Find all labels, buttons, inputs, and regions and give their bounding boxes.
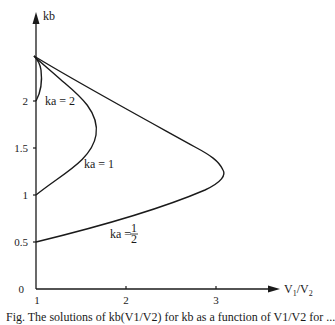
x-axis-arrow-icon [268, 286, 280, 293]
y-tick-label-1: 1 [23, 189, 29, 201]
x-tick-label-1: 1 [34, 294, 40, 306]
svg-text:ka =: ka = [110, 227, 131, 241]
y-tick-label-2: 2 [23, 95, 29, 107]
x-tick-label-2: 2 [123, 294, 129, 306]
label-ka-1: ka = 1 [84, 157, 114, 171]
curve-ka-half [34, 56, 224, 242]
curve-ka-1 [34, 56, 96, 195]
x-tick-label-3: 3 [213, 294, 219, 306]
figure-caption: Fig. The solutions of kb(V1/V2) for kb a… [6, 310, 335, 325]
y-tick-label-1.5: 1.5 [14, 142, 28, 154]
y-tick-label-0: 0 [19, 283, 25, 295]
y-tick-label-0.5: 0.5 [14, 236, 28, 248]
label-ka-2: ka = 2 [45, 94, 75, 108]
y-axis-title: kb [43, 9, 55, 23]
y-axis-arrow-icon [33, 12, 40, 24]
label-ka-half: ka = 1 2 [110, 221, 138, 246]
x-axis-title: V1/V2 [284, 282, 313, 298]
svg-text:2: 2 [131, 232, 137, 246]
